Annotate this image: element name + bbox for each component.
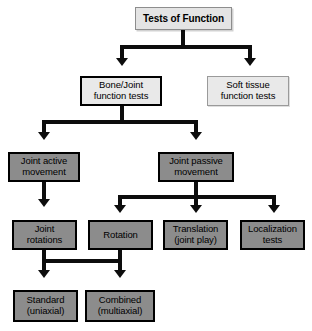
node-standard-uniaxial[interactable]: Standard (uniaxial)	[13, 290, 78, 322]
arrow-to-standard	[38, 270, 50, 278]
arrow-active-to-joint-rotations	[38, 199, 50, 207]
node-label-joint-active-2: movement	[21, 167, 67, 178]
node-label-translation-2: (joint play)	[173, 235, 219, 246]
arrow-passive-to-translation	[190, 205, 202, 213]
connector-bonejoint-bar	[42, 120, 198, 124]
node-rotation[interactable]: Rotation	[88, 220, 153, 250]
node-translation-joint-play[interactable]: Translation (joint play)	[163, 220, 228, 250]
arrow-bonejoint-to-passive	[190, 132, 202, 140]
node-tests-of-function[interactable]: Tests of Function	[135, 7, 232, 30]
node-combined-multiaxial[interactable]: Combined (multiaxial)	[85, 290, 155, 322]
node-label-joint-rotations-2: rotations	[27, 235, 63, 246]
node-label-localization-2: tests	[248, 235, 297, 246]
connector-merge-bar	[42, 259, 122, 263]
node-bone-joint-function-tests[interactable]: Bone/Joint function tests	[80, 76, 162, 106]
node-label-rotation: Rotation	[103, 230, 138, 241]
arrow-passive-to-rotation	[114, 205, 126, 213]
node-label-soft-tissue-2: function tests	[221, 91, 276, 102]
arrow-passive-to-localization	[268, 205, 280, 213]
node-label-combined-2: (multiaxial)	[98, 306, 143, 317]
node-localization-tests[interactable]: Localization tests	[240, 220, 305, 250]
arrow-root-to-soft-tissue	[244, 58, 256, 66]
node-joint-rotations[interactable]: Joint rotations	[12, 220, 77, 250]
node-joint-active-movement[interactable]: Joint active movement	[8, 152, 80, 182]
arrow-root-to-bone-joint	[116, 58, 128, 66]
node-soft-tissue-function-tests[interactable]: Soft tissue function tests	[207, 76, 289, 106]
node-label-bone-joint-2: function tests	[94, 91, 149, 102]
connector-root-bar	[120, 45, 252, 49]
node-label-joint-passive-2: movement	[169, 167, 223, 178]
connector-active-stem	[42, 181, 46, 201]
node-label-standard-2: (uniaxial)	[27, 306, 65, 317]
node-label-tests-of-function: Tests of Function	[143, 13, 224, 24]
flowchart-tests-of-function: Tests of Function Bone/Joint function te…	[0, 0, 312, 331]
arrow-to-combined	[114, 270, 126, 278]
arrow-bonejoint-to-active	[38, 132, 50, 140]
node-joint-passive-movement[interactable]: Joint passive movement	[158, 152, 234, 182]
